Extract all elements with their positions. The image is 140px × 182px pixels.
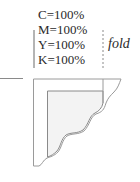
cmyk-values: C=100% M=100% Y=100% K=100% [38, 7, 87, 67]
black-value: K=100% [38, 52, 87, 67]
yellow-value: Y=100% [38, 37, 87, 52]
magenta-value: M=100% [38, 22, 87, 37]
inner-profile-shape [48, 91, 104, 157]
fold-label: fold [108, 36, 130, 52]
cyan-value: C=100% [38, 7, 87, 22]
